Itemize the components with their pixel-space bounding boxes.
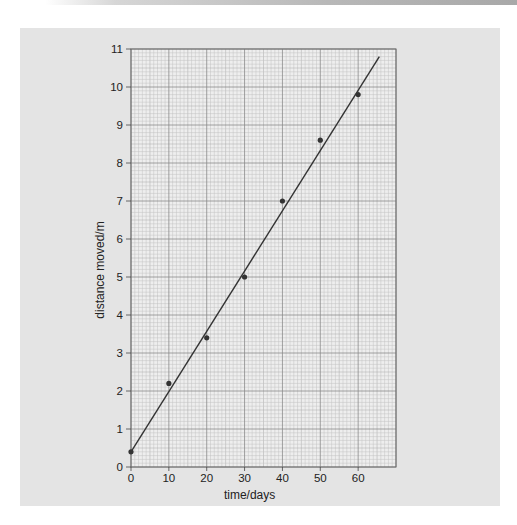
x-axis-ticks: 0102030405060 — [128, 467, 365, 484]
x-tick-label: 40 — [276, 472, 289, 484]
y-tick-label: 8 — [117, 157, 123, 169]
data-point — [242, 274, 247, 279]
y-axis-label: distance moved/m — [93, 221, 107, 318]
y-tick-label: 5 — [117, 271, 123, 283]
data-point — [280, 198, 285, 203]
data-point — [128, 449, 133, 454]
data-point — [356, 92, 361, 97]
x-tick-label: 60 — [352, 472, 365, 484]
x-tick-label: 20 — [200, 472, 213, 484]
y-tick-label: 2 — [117, 385, 123, 397]
y-tick-label: 0 — [117, 461, 123, 473]
data-point — [318, 138, 323, 143]
y-tick-label: 10 — [110, 81, 123, 93]
y-tick-label: 6 — [117, 233, 123, 245]
y-tick-label: 11 — [111, 43, 123, 55]
x-tick-label: 50 — [314, 472, 327, 484]
x-tick-label: 0 — [128, 472, 134, 484]
data-point — [166, 381, 171, 386]
y-tick-label: 4 — [117, 309, 124, 321]
y-tick-label: 3 — [117, 347, 123, 359]
y-axis-ticks: 01234567891011 — [110, 43, 131, 473]
data-point — [204, 335, 209, 340]
x-tick-label: 10 — [162, 472, 175, 484]
x-axis-label: time/days — [224, 488, 275, 502]
y-tick-label: 9 — [117, 119, 123, 131]
y-tick-label: 1 — [117, 423, 123, 435]
y-tick-label: 7 — [117, 195, 123, 207]
distance-time-graph: 01234567891011 0102030405060 time/days d… — [0, 0, 517, 525]
x-tick-label: 30 — [238, 472, 251, 484]
